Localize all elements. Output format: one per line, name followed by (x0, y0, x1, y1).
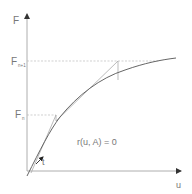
x-axis-label: u (176, 180, 181, 190)
equation-label: r(u, A) = 0 (77, 137, 117, 147)
f-n1-label: F (11, 56, 17, 67)
f-n-subscript: n (22, 116, 25, 121)
equilibrium-curve (27, 58, 176, 176)
f-n-label: F (15, 109, 21, 120)
f-n1-subscript: n+1 (18, 63, 26, 68)
tangent-step-2 (56, 61, 118, 121)
y-axis-label: F (13, 15, 19, 26)
load-displacement-diagram: F u F n+1 F n t r(u, A) = 0 (0, 0, 192, 194)
tangent-label: t (42, 157, 45, 167)
